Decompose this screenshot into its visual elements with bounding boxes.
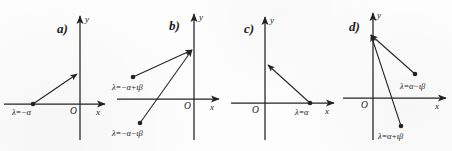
panel-d-origin-label: O <box>361 101 368 111</box>
panel-a: a) y x O λ=−α <box>0 0 113 151</box>
eigen-vector-arrow <box>268 65 310 103</box>
panel-d-x-axis-label: x <box>435 102 439 111</box>
panel-d: d) y x O λ=α−ιβ λ=α+ιβ <box>339 0 452 151</box>
panel-c-eigenvalue-label-1: λ=α <box>295 108 308 117</box>
panel-a-eigenvalue-label-1: λ=−α <box>12 108 31 117</box>
panel-a-y-axis-label: y <box>85 15 89 24</box>
eigenvalue-point-2 <box>138 121 143 126</box>
panel-d-y-axis-label: y <box>377 11 381 20</box>
panel-b-origin-label: O <box>184 102 191 112</box>
eigenvalue-diagram-figure: a) y x O λ=−α b) y x O λ=−α+ιβ λ=−α−ιβ <box>0 0 452 151</box>
panel-b-eigenvalue-label-1: λ=−α+ιβ <box>112 83 143 92</box>
panel-c: c) y x O λ=α <box>226 0 339 151</box>
panel-a-letter: a) <box>57 22 68 35</box>
panel-b-letter: b) <box>169 19 180 32</box>
eigenvalue-point-1 <box>131 75 136 80</box>
panel-b-y-axis-label: y <box>199 13 203 22</box>
eigenvalue-point-1 <box>413 72 418 77</box>
eigen-vector-arrow-1 <box>133 50 192 77</box>
panel-b-x-axis-label: x <box>210 103 214 112</box>
panel-c-letter: c) <box>244 22 254 35</box>
panel-b-eigenvalue-label-2: λ=−α−ιβ <box>112 129 143 138</box>
eigen-vector-arrow <box>33 74 77 104</box>
panel-d-eigenvalue-label-2: λ=α+ιβ <box>378 132 403 141</box>
panel-a-x-axis-label: x <box>96 108 100 117</box>
eigenvalue-point <box>31 102 36 107</box>
eigen-vector-arrow-2 <box>140 50 192 123</box>
panel-a-origin-label: O <box>70 107 77 117</box>
panel-b: b) y x O λ=−α+ιβ λ=−α−ιβ <box>113 0 226 151</box>
panel-c-y-axis-label: y <box>270 16 274 25</box>
panel-c-canvas <box>226 0 339 151</box>
eigenvalue-point <box>308 101 313 106</box>
panel-d-eigenvalue-label-1: λ=α−ιβ <box>400 82 425 91</box>
panel-d-letter: d) <box>349 20 360 33</box>
eigenvalue-point-2 <box>399 124 404 129</box>
panel-c-origin-label: O <box>252 106 259 116</box>
panel-c-x-axis-label: x <box>325 107 329 116</box>
